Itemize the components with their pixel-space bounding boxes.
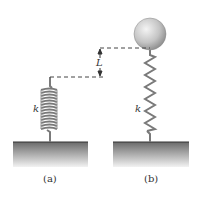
spring-a <box>41 77 57 142</box>
length-label: L <box>96 57 103 68</box>
spring-diagram: L k k (a) (b) <box>0 0 199 198</box>
panel-label-a: (a) <box>43 173 57 184</box>
spring-constant-label-b: k <box>135 103 141 114</box>
spring-constant-label-a: k <box>33 103 39 114</box>
ground-a <box>13 142 88 167</box>
panel-label-b: (b) <box>144 173 158 184</box>
ground-b <box>113 142 189 167</box>
ball <box>134 18 166 50</box>
diagram-graphics <box>0 0 199 198</box>
spring-b <box>145 49 155 142</box>
